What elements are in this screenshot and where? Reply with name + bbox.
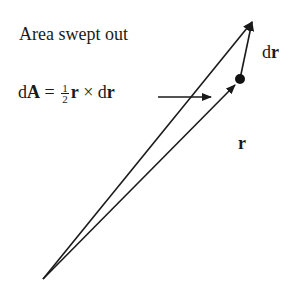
dr-label-r: r — [271, 42, 279, 62]
particle-dot — [235, 74, 245, 84]
eq-cross: × — [83, 82, 93, 102]
eq-r2: r — [107, 82, 115, 102]
r-label: r — [238, 133, 246, 154]
area-equation: dA = 12r × dr — [18, 82, 115, 104]
eq-equals: = — [45, 82, 55, 102]
eq-d: d — [18, 82, 27, 102]
frac-denominator: 2 — [61, 94, 69, 104]
dr-label-d: d — [262, 42, 271, 62]
eq-d2: d — [98, 82, 107, 102]
dr-label: dr — [262, 42, 279, 63]
eq-fraction: 12 — [61, 83, 69, 104]
area-swept-label: Area swept out — [19, 24, 128, 45]
r-plus-dr-vector — [43, 22, 252, 279]
r-vector — [43, 85, 235, 279]
area-swept-diagram: Area swept out dA = 12r × dr dr r — [0, 0, 293, 293]
eq-A: A — [27, 82, 40, 102]
eq-r: r — [71, 82, 79, 102]
